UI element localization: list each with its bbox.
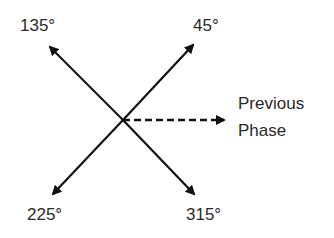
label-previous: Previous: [238, 95, 304, 112]
label-45: 45°: [193, 17, 219, 34]
label-225: 225°: [27, 206, 62, 223]
label-315: 315°: [186, 206, 221, 223]
vector-135: [50, 47, 123, 120]
label-phase: Phase: [238, 122, 286, 139]
label-135: 135°: [20, 17, 55, 34]
vector-45: [123, 45, 193, 120]
vector-315: [123, 120, 194, 194]
vector-225: [53, 120, 123, 194]
phase-diagram: [0, 0, 334, 238]
